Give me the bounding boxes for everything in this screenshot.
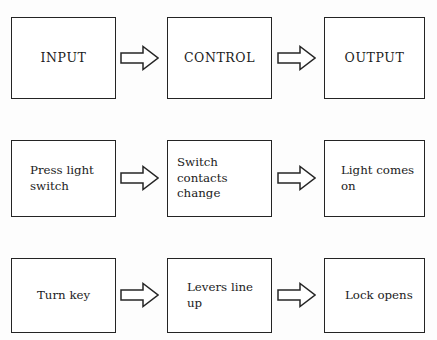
block-label: Light comes on: [325, 163, 424, 194]
block-label: Turn key: [12, 288, 115, 304]
block-levers-line-up[interactable]: Levers line up: [167, 258, 272, 333]
right-block-arrow-icon: [120, 282, 159, 308]
block-label: OUTPUT: [325, 50, 424, 67]
block-switch-contacts-change[interactable]: Switch contacts change: [167, 140, 272, 217]
block-light-comes-on[interactable]: Light comes on: [324, 140, 425, 217]
right-block-arrow-icon: [120, 45, 159, 71]
right-block-arrow-icon: [277, 45, 316, 71]
diagram-row-generic-system: INPUT CONTROL OUTPUT: [0, 17, 437, 99]
block-press-light-switch[interactable]: Press light switch: [11, 140, 116, 217]
block-control[interactable]: CONTROL: [167, 17, 272, 99]
right-block-arrow-icon: [120, 165, 159, 191]
block-output[interactable]: OUTPUT: [324, 17, 425, 99]
block-label: Switch contacts change: [168, 155, 271, 202]
block-label: Lock opens: [325, 288, 424, 304]
diagram-row-lock-and-key-example: Turn key Levers line up Lock opens: [0, 258, 437, 333]
right-block-arrow-icon: [277, 282, 316, 308]
block-label: CONTROL: [168, 50, 271, 67]
block-label: Press light switch: [12, 163, 115, 194]
block-turn-key[interactable]: Turn key: [11, 258, 116, 333]
block-input[interactable]: INPUT: [11, 17, 116, 99]
block-label: INPUT: [12, 50, 115, 67]
diagram-row-light-switch-example: Press light switch Switch contacts chang…: [0, 140, 437, 217]
block-diagram: INPUT CONTROL OUTPUT Press light switch: [0, 0, 437, 340]
block-lock-opens[interactable]: Lock opens: [324, 258, 425, 333]
block-label: Levers line up: [168, 280, 271, 311]
right-block-arrow-icon: [277, 165, 316, 191]
